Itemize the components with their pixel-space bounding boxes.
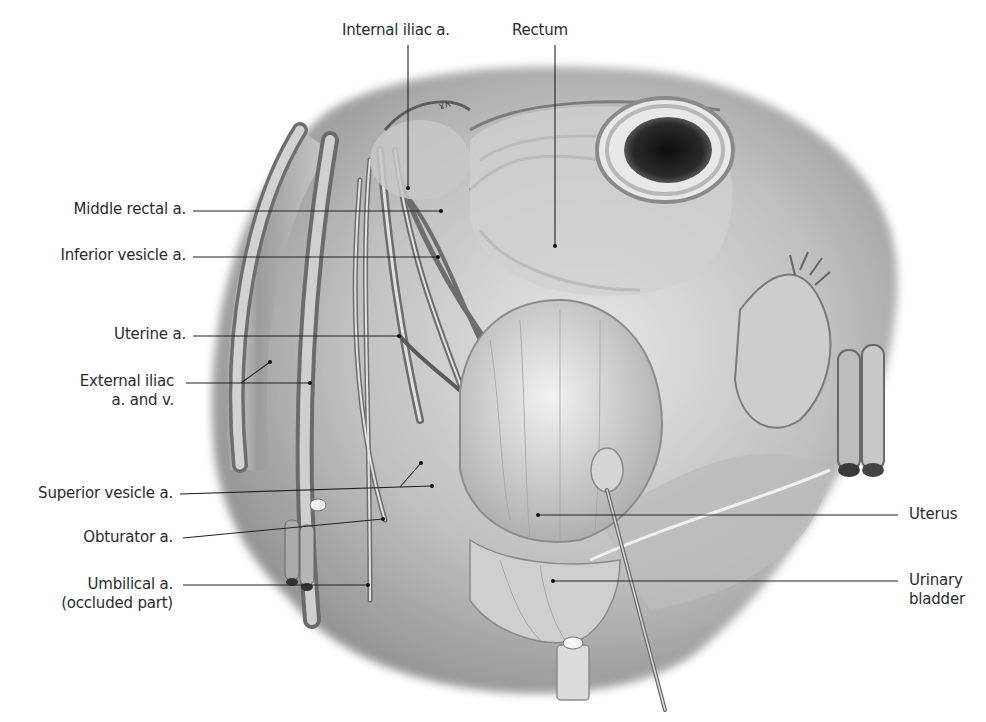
label-inferior-vesicle-artery: Inferior vesicle a. <box>60 246 186 265</box>
label-external-iliac-line2: a. and v. <box>80 391 174 410</box>
pelvis-illustration: ɤʌ <box>0 0 986 722</box>
anatomy-figure: ɤʌ <box>0 0 986 722</box>
rectum-lumen <box>624 117 712 183</box>
label-superior-vesicle-artery: Superior vesicle a. <box>38 484 173 503</box>
label-urinary-bladder-line1: Urinary <box>909 571 965 590</box>
figure-caption-fragment: Internal iliac artery branches in the fe… <box>195 0 819 6</box>
label-uterine-artery: Uterine a. <box>114 325 186 344</box>
label-rectum: Rectum <box>512 21 568 40</box>
label-uterus: Uterus <box>909 505 957 524</box>
label-external-iliac: External iliac a. and v. <box>80 372 174 410</box>
label-urinary-bladder-line2: bladder <box>909 590 965 609</box>
label-external-iliac-line1: External iliac <box>80 372 174 391</box>
label-obturator-artery: Obturator a. <box>83 528 173 547</box>
label-umbilical-artery: Umbilical a. (occluded part) <box>61 575 173 613</box>
label-umbilical-line1: Umbilical a. <box>61 575 173 594</box>
label-middle-rectal-artery: Middle rectal a. <box>74 200 186 219</box>
label-urinary-bladder: Urinary bladder <box>909 571 965 609</box>
uterus-shape <box>460 300 662 542</box>
label-umbilical-line2: (occluded part) <box>61 594 173 613</box>
label-internal-iliac-artery: Internal iliac a. <box>342 21 450 40</box>
